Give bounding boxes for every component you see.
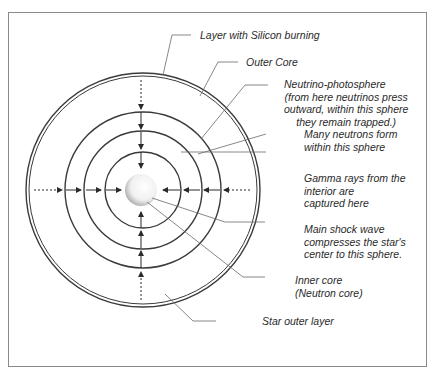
label-inner-core: Inner core (Neutron core) [295,274,363,299]
label-neutrino-photosphere: Neutrino-photosphere (from here neutrino… [284,78,408,128]
label-many-neutrons: Many neutrons form within this sphere [304,128,397,153]
label-main-shock-wave: Main shock wave compresses the star's ce… [304,223,406,261]
label-star-outer-layer: Star outer layer [262,315,334,328]
label-gamma-rays: Gamma rays from the interior are capture… [304,172,406,210]
label-silicon-layer: Layer with Silicon burning [200,29,320,42]
label-outer-core: Outer Core [246,56,298,69]
inner-core-ball [125,174,157,206]
